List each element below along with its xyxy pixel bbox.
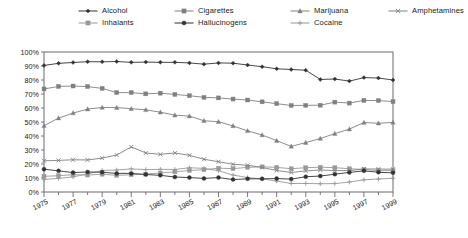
x-tick-label: 1985 xyxy=(177,197,195,212)
y-tick-label: 60% xyxy=(25,104,40,113)
legend-item-alcohol[interactable]: Alcohol xyxy=(78,6,174,16)
plus-marker-icon xyxy=(290,18,310,28)
x-tick-label: 1997 xyxy=(351,197,369,212)
legend-item-cocaine[interactable]: Cocaine xyxy=(290,18,388,28)
y-tick-label: 0% xyxy=(29,188,40,197)
x-tick-label: 1983 xyxy=(147,197,165,212)
y-tick-label: 50% xyxy=(25,118,40,127)
circle-marker-icon xyxy=(174,18,194,28)
legend-label: Marijuana xyxy=(314,6,348,16)
plot-area: 0%10%20%30%40%50%60%70%80%90%100%1975197… xyxy=(0,38,415,238)
y-tick-label: 10% xyxy=(25,174,40,183)
y-tick-label: 30% xyxy=(25,146,40,155)
x-tick-label: 1991 xyxy=(264,197,282,212)
diamond-marker-icon xyxy=(78,6,98,16)
legend-item-cigarettes[interactable]: Cigarettes xyxy=(174,6,290,16)
series-marijuana xyxy=(42,105,395,148)
legend-label: Inhalants xyxy=(102,18,134,28)
x-tick-label: 1981 xyxy=(118,197,136,212)
x-tick-label: 1979 xyxy=(89,197,107,212)
x-tick-label: 1977 xyxy=(60,197,78,212)
y-tick-label: 20% xyxy=(25,160,40,169)
x-tick-label: 1995 xyxy=(322,197,340,212)
y-tick-label: 90% xyxy=(25,62,40,71)
chart-legend: AlcoholCigarettesMarijuanaAmphetaminesIn… xyxy=(0,6,415,38)
x-tick-label: 1999 xyxy=(380,197,398,212)
legend-label: Hallucinogens xyxy=(198,18,247,28)
square-marker-icon xyxy=(174,6,194,16)
legend-item-hallucinogens[interactable]: Hallucinogens xyxy=(174,18,290,28)
triangle-marker-icon xyxy=(290,6,310,16)
x-marker-icon xyxy=(388,6,408,16)
y-tick-label: 40% xyxy=(25,132,40,141)
x-tick-label: 1975 xyxy=(31,197,49,212)
y-tick-label: 70% xyxy=(25,90,40,99)
x-tick-label: 1989 xyxy=(235,197,253,212)
legend-item-inhalants[interactable]: Inhalants xyxy=(78,18,174,28)
y-tick-label: 80% xyxy=(25,76,40,85)
y-tick-label: 100% xyxy=(21,48,40,57)
legend-label: Alcohol xyxy=(102,6,128,16)
series-cigarettes xyxy=(42,84,395,107)
legend-label: Cocaine xyxy=(314,18,343,28)
series-alcohol xyxy=(42,60,395,84)
square-marker-icon xyxy=(78,18,98,28)
legend-item-marijuana[interactable]: Marijuana xyxy=(290,6,388,16)
x-tick-label: 1993 xyxy=(293,197,311,212)
legend-label: Cigarettes xyxy=(198,6,234,16)
legend-label: Amphetamines xyxy=(412,6,464,16)
x-tick-label: 1987 xyxy=(206,197,224,212)
legend-item-amphetamines[interactable]: Amphetamines xyxy=(388,6,468,16)
legend-grid: AlcoholCigarettesMarijuanaAmphetaminesIn… xyxy=(0,6,415,28)
